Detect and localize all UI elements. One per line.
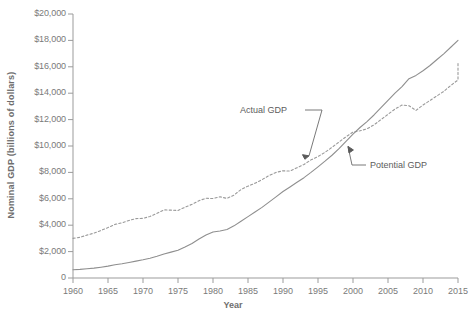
potential-gdp-label: Potential GDP — [370, 160, 427, 170]
y-tick-label: $18,000 — [14, 34, 66, 44]
y-tick-label: $2,000 — [14, 246, 66, 256]
y-tick-label: $8,000 — [14, 166, 66, 176]
y-tick-label: $4,000 — [14, 219, 66, 229]
x-tick-label: 1985 — [228, 286, 268, 296]
y-tick-label: 0 — [14, 272, 66, 282]
y-tick-label: $12,000 — [14, 114, 66, 124]
x-tick-label: 1980 — [193, 286, 233, 296]
y-tick-label: $14,000 — [14, 87, 66, 97]
x-tick-label: 1995 — [298, 286, 338, 296]
y-tick-label: $16,000 — [14, 61, 66, 71]
y-tick-label: $6,000 — [14, 193, 66, 203]
actual-gdp-label: Actual GDP — [240, 105, 287, 115]
x-tick-label: 1970 — [123, 286, 163, 296]
x-tick-label: 1975 — [158, 286, 198, 296]
x-tick-label: 2010 — [403, 286, 443, 296]
y-tick-label: $10,000 — [14, 140, 66, 150]
series-line-potential-gdp — [73, 40, 458, 269]
x-tick-label: 2000 — [333, 286, 373, 296]
x-tick-label: 2015 — [438, 286, 473, 296]
actual-gdp-arrowhead — [303, 155, 310, 160]
x-tick-label: 1990 — [263, 286, 303, 296]
y-tick-label: $20,000 — [14, 8, 66, 18]
potential-gdp-arrowhead — [348, 146, 353, 153]
x-tick-label: 1960 — [53, 286, 93, 296]
actual-gdp-leader — [305, 110, 322, 156]
x-tick-label: 1965 — [88, 286, 128, 296]
x-tick-label: 2005 — [368, 286, 408, 296]
